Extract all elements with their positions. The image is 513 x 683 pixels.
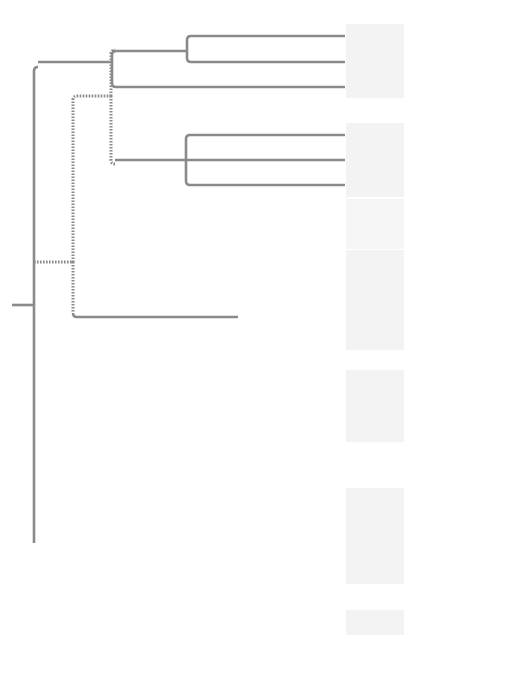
- band-archaeplastida: [346, 370, 404, 442]
- phylogenetic-tree: [0, 0, 513, 683]
- sar-node: [73, 96, 111, 262]
- tree-branches: [12, 36, 345, 543]
- band-sar-2: [346, 199, 404, 249]
- band-unikonta-1: [346, 488, 404, 584]
- band-sar-1: [346, 123, 404, 197]
- trunk: [34, 67, 38, 543]
- band-excavata: [346, 24, 404, 98]
- branch-rhizarians: [73, 313, 238, 317]
- label-bands: [346, 24, 404, 635]
- band-unikonta-2: [346, 610, 404, 635]
- sa-node: [111, 96, 115, 164]
- excavata-node: [112, 51, 345, 87]
- excavata-inner-node: [187, 36, 345, 62]
- band-sar-3: [346, 250, 404, 350]
